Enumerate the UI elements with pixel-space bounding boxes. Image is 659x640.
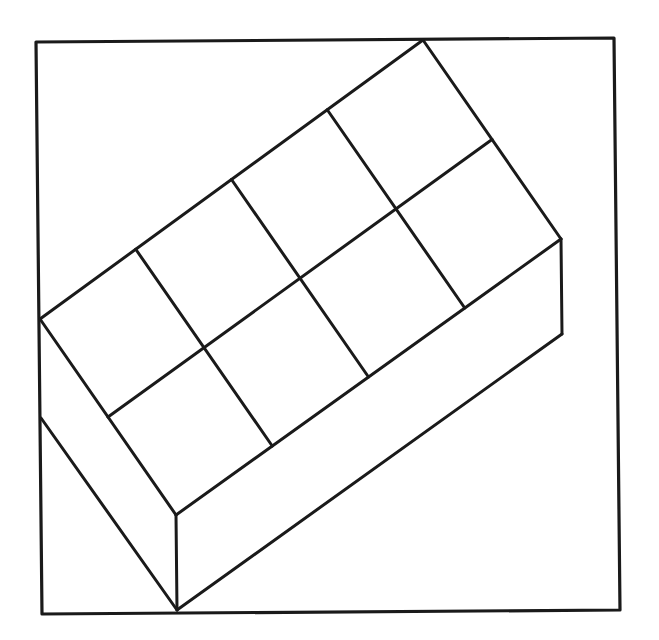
- diagram-canvas: [0, 0, 659, 640]
- grid-line-short: [327, 110, 465, 308]
- grid-line-short: [40, 319, 176, 515]
- vertical-edge-right: [561, 239, 562, 334]
- box-top-face: [40, 40, 561, 515]
- diagram-figure: [0, 0, 659, 640]
- vertical-edge-front: [176, 515, 177, 610]
- grid-line-short: [136, 249, 273, 446]
- bottom-edge-left: [41, 418, 177, 610]
- outer-frame: [36, 38, 620, 614]
- grid-line-short: [423, 40, 561, 239]
- grid-line-short: [232, 180, 369, 378]
